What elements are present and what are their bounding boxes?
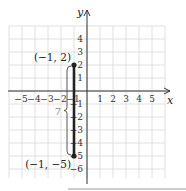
y-tick-label: 1 (77, 73, 83, 83)
x-tick-label: 5 (149, 94, 155, 104)
y-tick-label: −3 (70, 125, 84, 135)
y-tick-label: −1 (70, 99, 83, 109)
point-marker (71, 62, 76, 67)
y-tick-label: 4 (77, 34, 83, 44)
x-tick-label: −3 (40, 94, 54, 104)
x-axis-label: x (167, 94, 174, 107)
point-label: (−1, 2) (34, 51, 71, 63)
y-tick-label: −6 (70, 164, 84, 174)
y-tick-label: −2 (70, 112, 83, 122)
point-label: (−1, −5) (25, 158, 71, 170)
y-axis-label: y (76, 6, 84, 19)
x-tick-label: −4 (27, 94, 41, 104)
x-tick-label: 4 (136, 94, 142, 104)
x-tick-label: −2 (53, 94, 66, 104)
y-tick-label: 3 (77, 47, 83, 57)
distance-label: 7 (55, 106, 61, 117)
x-tick-label: 2 (110, 94, 116, 104)
y-tick-label: −4 (70, 138, 84, 148)
coordinate-plane: −5−4−3−2−1123454321−1−2−3−4−5−6 (−1, 2)(… (0, 0, 186, 191)
point-marker (71, 153, 76, 158)
y-tick-label: 2 (77, 60, 83, 70)
x-tick-label: 1 (97, 94, 103, 104)
x-tick-label: −5 (14, 94, 28, 104)
x-tick-label: 3 (123, 94, 129, 104)
